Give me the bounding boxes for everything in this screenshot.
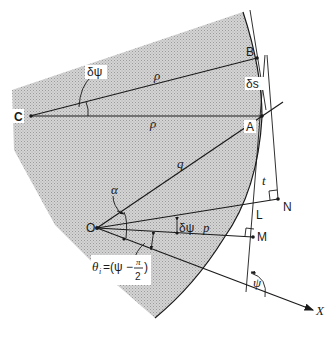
label-B: B <box>246 45 254 59</box>
svg-text:): ) <box>144 260 148 274</box>
point-A <box>260 114 264 118</box>
svg-text:2: 2 <box>135 271 141 282</box>
label-X: X <box>315 303 325 318</box>
label-delta-s: δs <box>246 77 259 91</box>
label-delta-psi-mid: δψ <box>179 221 194 235</box>
point-low <box>122 237 125 240</box>
label-p: p <box>202 220 210 235</box>
point-B <box>255 56 259 60</box>
t-line <box>267 55 278 199</box>
label-t: t <box>262 173 266 188</box>
label-rho-upper: ρ <box>153 68 160 83</box>
svg-text:π: π <box>136 257 141 267</box>
label-O: O <box>86 221 95 235</box>
curvature-diagram: δψ ρ ρ C B δs A q t α O N L M δψ p ψ X θ… <box>0 0 335 337</box>
right-angle-N <box>269 190 277 200</box>
label-q: q <box>177 156 184 171</box>
point-N <box>276 197 280 201</box>
label-alpha: α <box>111 182 119 197</box>
svg-text:=(ψ −: =(ψ − <box>103 260 133 274</box>
label-N: N <box>283 200 292 214</box>
label-psi: ψ <box>253 275 262 290</box>
label-M: M <box>257 230 267 244</box>
point-M <box>251 235 255 239</box>
label-C: C <box>14 110 23 124</box>
svg-text:θ: θ <box>92 259 99 274</box>
right-angle-M <box>245 228 254 236</box>
point-C <box>29 114 33 118</box>
label-L: L <box>256 208 263 222</box>
label-delta-psi-top: δψ <box>87 65 102 79</box>
label-A: A <box>246 120 254 134</box>
label-rho-lower: ρ <box>149 116 156 131</box>
svg-text:i: i <box>99 267 101 276</box>
point-O <box>95 226 99 230</box>
